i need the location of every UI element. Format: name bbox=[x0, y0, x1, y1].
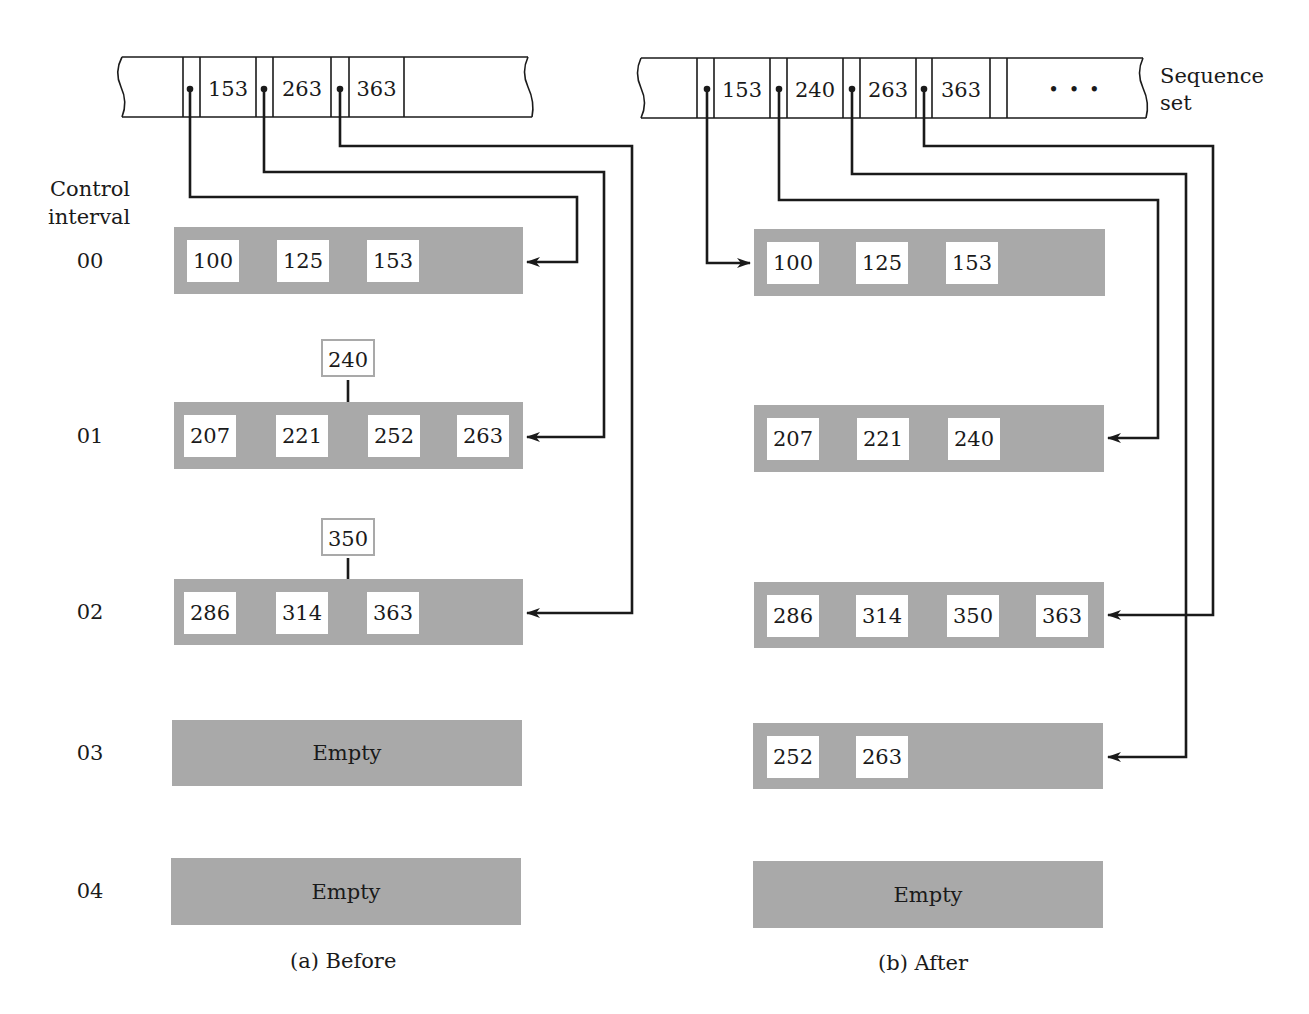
control-interval-02-after: 286 314 350 363 bbox=[754, 582, 1104, 648]
seq-key: 153 bbox=[200, 77, 256, 101]
seq-key: 263 bbox=[860, 78, 916, 102]
insert-record-350: 350 bbox=[321, 518, 375, 556]
record: 263 bbox=[457, 415, 509, 457]
ci-number: 02 bbox=[70, 600, 110, 624]
ci-number: 03 bbox=[70, 741, 110, 765]
insert-record-240: 240 bbox=[321, 339, 375, 377]
record: 100 bbox=[187, 240, 239, 282]
record: 125 bbox=[856, 242, 908, 284]
seq-key: 263 bbox=[273, 77, 331, 101]
record: 350 bbox=[947, 595, 999, 637]
record: 207 bbox=[184, 415, 236, 457]
seq-key: 153 bbox=[714, 78, 770, 102]
control-interval-01-before: 207 221 252 263 bbox=[174, 402, 523, 469]
ellipsis: • • • bbox=[1007, 78, 1143, 102]
record: 286 bbox=[767, 595, 819, 637]
empty-label: Empty bbox=[171, 858, 521, 925]
control-interval-01-after: 207 221 240 bbox=[754, 405, 1104, 472]
control-interval-03-before: Empty bbox=[172, 720, 522, 786]
record: 125 bbox=[277, 240, 329, 282]
record: 221 bbox=[857, 418, 909, 460]
record: 252 bbox=[368, 415, 420, 457]
ci-number: 01 bbox=[70, 424, 110, 448]
control-interval-label-line1: Control bbox=[50, 177, 130, 201]
record: 252 bbox=[767, 736, 819, 778]
caption-after: (b) After bbox=[878, 951, 968, 975]
record: 314 bbox=[856, 595, 908, 637]
empty-label: Empty bbox=[753, 861, 1103, 928]
record: 240 bbox=[948, 418, 1000, 460]
caption-before: (a) Before bbox=[290, 949, 396, 973]
ci-number: 00 bbox=[70, 249, 110, 273]
record: 263 bbox=[856, 736, 908, 778]
sequence-set-label-line2: set bbox=[1160, 91, 1192, 115]
record: 221 bbox=[276, 415, 328, 457]
seq-key: 240 bbox=[787, 78, 843, 102]
record: 100 bbox=[767, 242, 819, 284]
record: 314 bbox=[276, 592, 328, 634]
pointers-before bbox=[190, 89, 632, 613]
record: 286 bbox=[184, 592, 236, 634]
record: 207 bbox=[767, 418, 819, 460]
control-interval-label-line2: interval bbox=[48, 205, 130, 229]
seq-key: 363 bbox=[932, 78, 990, 102]
control-interval-02-before: 286 314 363 bbox=[174, 579, 523, 645]
control-interval-04-before: Empty bbox=[171, 858, 521, 925]
record: 363 bbox=[1036, 595, 1088, 637]
control-interval-03-after: 252 263 bbox=[753, 723, 1103, 789]
record: 153 bbox=[946, 242, 998, 284]
seq-key: 363 bbox=[349, 77, 404, 101]
control-interval-00-after: 100 125 153 bbox=[754, 229, 1105, 296]
record: 363 bbox=[367, 592, 419, 634]
control-interval-00-before: 100 125 153 bbox=[174, 227, 523, 294]
record: 153 bbox=[367, 240, 419, 282]
sequence-set-label-line1: Sequence bbox=[1160, 64, 1264, 88]
ci-number: 04 bbox=[70, 879, 110, 903]
control-interval-04-after: Empty bbox=[753, 861, 1103, 928]
empty-label: Empty bbox=[172, 720, 522, 786]
